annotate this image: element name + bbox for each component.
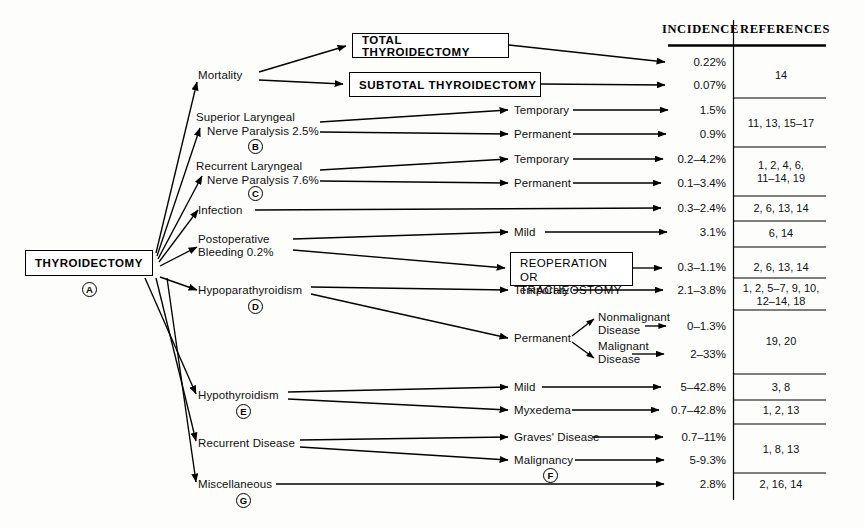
incidence-value: 2.1–3.8% bbox=[648, 284, 726, 296]
sublabel-mild-bleeding[interactable]: Mild bbox=[514, 226, 536, 239]
incidence-value: 0.9% bbox=[648, 128, 726, 140]
sublabel-temporary-hypopara[interactable]: Temporary bbox=[514, 284, 569, 297]
marker-c-circle: C bbox=[248, 186, 263, 201]
incidence-value: 1.5% bbox=[648, 104, 726, 116]
reference-group: 6, 14 bbox=[736, 227, 826, 240]
branch-label-recurrent-disease[interactable]: Recurrent Disease bbox=[198, 437, 295, 450]
root-node-thyroidectomy[interactable]: THYROIDECTOMY bbox=[25, 250, 153, 276]
sublabel-nonmalignant-line2[interactable]: Disease bbox=[598, 324, 640, 337]
branch-label-recurrent-laryngeal-line1[interactable]: Recurrent Laryngeal bbox=[196, 160, 302, 173]
reference-group: 2, 16, 14 bbox=[736, 478, 826, 491]
branch-label-recurrent-laryngeal-line2[interactable]: Nerve Paralysis 7.6% bbox=[207, 174, 319, 187]
sublabel-permanent-hypopara[interactable]: Permanent bbox=[514, 332, 571, 345]
reference-group: 11, 13, 15–17 bbox=[736, 117, 826, 130]
marker-a-circle: A bbox=[82, 282, 97, 297]
node-subtotal-thyroidectomy[interactable]: SUBTOTAL THYROIDECTOMY bbox=[349, 72, 541, 97]
incidence-value: 0.1–3.4% bbox=[648, 177, 726, 189]
incidence-value: 3.1% bbox=[648, 226, 726, 238]
reference-group: 1, 8, 13 bbox=[736, 443, 826, 456]
reference-group: 14 bbox=[736, 69, 826, 82]
branch-label-postoperative-bleeding-line1[interactable]: Postoperative bbox=[198, 233, 270, 246]
reference-group: 2, 6, 13, 14 bbox=[736, 261, 826, 274]
incidence-value: 0.7–42.8% bbox=[648, 404, 726, 416]
node-reoperation-or-tracheostomy[interactable]: REOPERATION OR TRACHEOSTOMY bbox=[510, 252, 633, 286]
marker-g-circle: G bbox=[236, 493, 251, 508]
incidence-value: 0.22% bbox=[648, 56, 726, 68]
root-node-label: THYROIDECTOMY bbox=[35, 257, 143, 269]
branch-label-superior-laryngeal-line2[interactable]: Nerve Paralysis 2.5% bbox=[207, 125, 319, 138]
node-reoperation-label-line1: REOPERATION bbox=[520, 257, 632, 271]
branch-label-mortality[interactable]: Mortality bbox=[198, 69, 242, 82]
incidence-value: 0.7–11% bbox=[648, 431, 726, 443]
branch-label-postoperative-bleeding-line2[interactable]: Bleeding 0.2% bbox=[198, 246, 273, 259]
column-header-incidence: INCIDENCE bbox=[662, 22, 730, 37]
incidence-value: 2.8% bbox=[648, 478, 726, 490]
incidence-value: 0.2–4.2% bbox=[648, 153, 726, 165]
reference-group: 2, 6, 13, 14 bbox=[736, 202, 826, 215]
sublabel-malignant-line2[interactable]: Disease bbox=[598, 353, 640, 366]
sublabel-myxedema[interactable]: Myxedema bbox=[514, 404, 571, 417]
marker-b-circle: B bbox=[248, 139, 263, 154]
incidence-value: 0.3–1.1% bbox=[648, 261, 726, 273]
incidence-value: 0–1.3% bbox=[648, 320, 726, 332]
reference-group: 3, 8 bbox=[736, 381, 826, 394]
node-total-thyroidectomy[interactable]: TOTAL THYROIDECTOMY bbox=[352, 33, 509, 58]
branch-label-miscellaneous[interactable]: Miscellaneous bbox=[198, 478, 272, 491]
reference-group: 1, 2, 5–7, 9, 10, 12–14, 18 bbox=[731, 282, 831, 308]
incidence-value: 5-9.3% bbox=[648, 454, 726, 466]
sublabel-permanent-rln[interactable]: Permanent bbox=[514, 177, 571, 190]
column-header-references: REFERENCES bbox=[740, 22, 826, 37]
sublabel-permanent-sln[interactable]: Permanent bbox=[514, 128, 571, 141]
marker-e-circle: E bbox=[236, 404, 251, 419]
incidence-value: 0.3–2.4% bbox=[648, 202, 726, 214]
branch-label-superior-laryngeal-line1[interactable]: Superior Laryngeal bbox=[196, 111, 295, 124]
sublabel-temporary-rln[interactable]: Temporary bbox=[514, 153, 569, 166]
node-total-thyroidectomy-label: TOTAL THYROIDECTOMY bbox=[362, 34, 508, 58]
marker-d-circle: D bbox=[248, 299, 263, 314]
node-subtotal-thyroidectomy-label: SUBTOTAL THYROIDECTOMY bbox=[359, 79, 536, 91]
reference-group: 19, 20 bbox=[736, 335, 826, 348]
figure-canvas: THYROIDECTOMY A Mortality Superior Laryn… bbox=[0, 0, 865, 527]
incidence-value: 2–33% bbox=[648, 348, 726, 360]
sublabel-malignant-line1[interactable]: Malignant bbox=[598, 340, 649, 353]
reference-group: 1, 2, 4, 6, 11–14, 19 bbox=[736, 159, 826, 185]
sublabel-graves-disease[interactable]: Graves' Disease bbox=[514, 431, 600, 444]
sublabel-malignancy[interactable]: Malignancy bbox=[514, 454, 573, 467]
sublabel-temporary-sln[interactable]: Temporary bbox=[514, 104, 569, 117]
marker-f-circle: F bbox=[543, 468, 558, 483]
incidence-value: 0.07% bbox=[648, 79, 726, 91]
incidence-value: 5–42.8% bbox=[648, 381, 726, 393]
reference-group: 1, 2, 13 bbox=[736, 404, 826, 417]
branch-label-infection[interactable]: Infection bbox=[198, 204, 242, 217]
branch-label-hypothyroidism[interactable]: Hypothyroidism bbox=[198, 389, 279, 402]
branch-label-hypoparathyroidism[interactable]: Hypoparathyroidism bbox=[198, 284, 302, 297]
sublabel-mild-hypothyroid[interactable]: Mild bbox=[514, 381, 536, 394]
